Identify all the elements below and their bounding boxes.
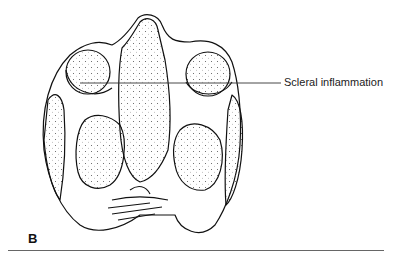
left-globe [66, 50, 110, 94]
left-sinus [76, 115, 124, 188]
annotation-label-scleral-inflammation: Scleral inflammation [284, 76, 383, 88]
anatomical-illustration [0, 0, 393, 255]
panel-label: B [28, 231, 37, 246]
right-sinus [174, 124, 223, 190]
nasal-cavity [119, 19, 170, 182]
bottom-divider [8, 250, 384, 251]
